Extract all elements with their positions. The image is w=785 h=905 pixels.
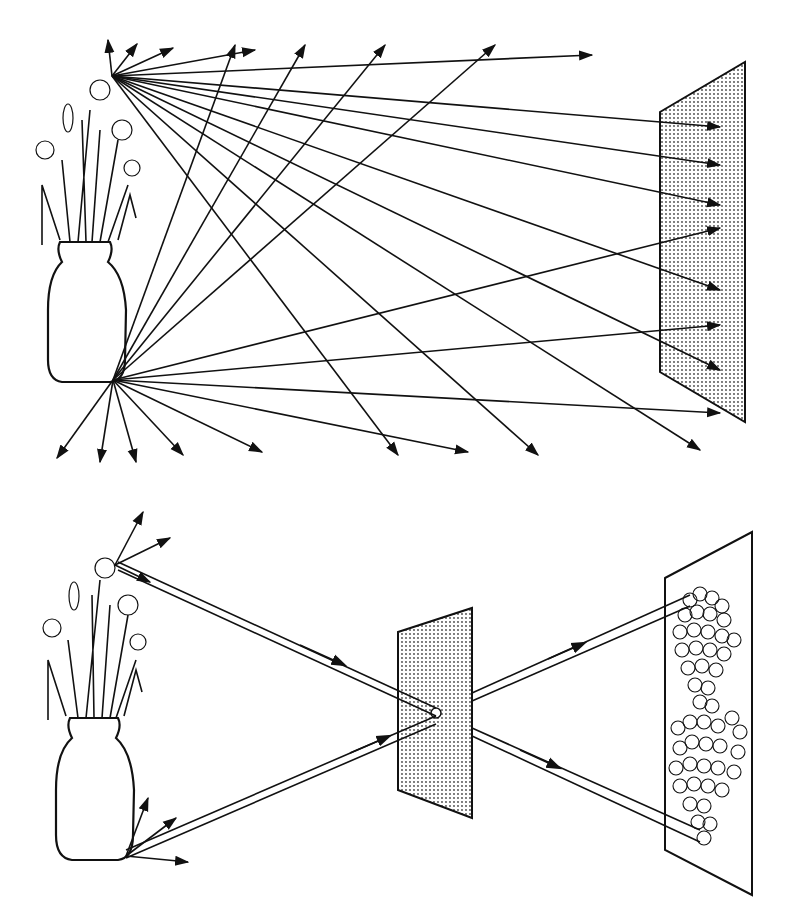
vase-with-flowers-bottom [43, 558, 146, 860]
bottom-panel [43, 512, 752, 895]
pinhole-diagram [0, 0, 785, 905]
top-panel [36, 40, 745, 462]
screen-top [660, 62, 745, 422]
rays-from-flower-top [108, 40, 720, 455]
vase-with-flowers-top [36, 80, 140, 382]
screen-bottom [665, 532, 752, 895]
